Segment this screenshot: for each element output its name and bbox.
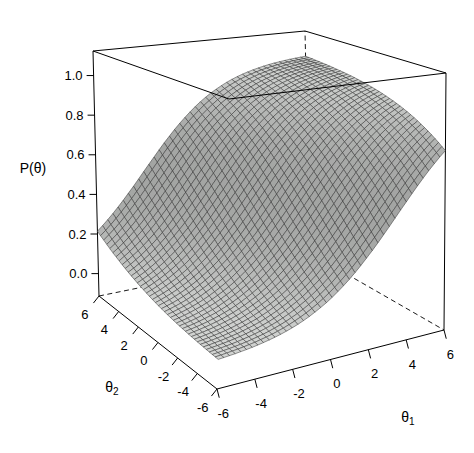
theta1-axis-title-base: θ [401,409,409,425]
theta2-axis-title-base: θ [105,379,113,395]
theta1-tick [217,389,219,398]
theta2-tick [192,374,198,381]
theta1-tick-label: 4 [409,357,416,372]
surface-mesh [97,56,445,359]
figure-canvas: 0.00.20.40.60.81.06420-2-4-6-6-4-20246P(… [0,0,474,453]
theta1-tick-label: -2 [293,386,305,401]
theta2-tick [133,327,139,334]
z-tick-label: 1.0 [65,68,83,83]
theta2-tick-label: -6 [197,400,209,415]
theta1-axis-title: θ1 [401,409,415,427]
theta2-axis-title-subscript: 2 [113,386,119,397]
theta1-tick [293,369,295,378]
theta2-tick-label: 2 [120,338,127,353]
z-tick-label: 0.4 [67,187,85,202]
top-front-left-edge [93,51,229,99]
theta2-tick-label: -4 [177,384,189,399]
theta2-tick [152,343,158,350]
theta1-tick [255,379,257,388]
z-axis-edge [93,51,99,296]
theta1-tick [406,340,408,349]
theta2-axis-title: θ2 [105,379,119,397]
theta2-tick-label: 4 [101,322,108,337]
theta1-tick [444,330,446,339]
z-axis-title: P(θ) [20,160,46,176]
theta1-tick-label: 6 [447,347,454,362]
theta2-tick-label: -2 [158,369,170,384]
surface-plot-svg: 0.00.20.40.60.81.06420-2-4-6-6-4-20246P(… [0,0,474,453]
z-tick-label: 0.0 [69,266,87,281]
theta2-tick [93,296,99,303]
theta2-tick-label: 6 [81,307,88,322]
theta2-tick [211,389,217,396]
theta2-tick [172,358,178,365]
theta1-axis-title-subscript: 1 [409,416,415,427]
theta1-tick-label: -6 [218,406,230,421]
top-back-left-edge [93,31,305,51]
theta1-tick-label: 2 [371,366,378,381]
theta2-tick [113,312,119,319]
theta1-tick-label: -4 [255,396,267,411]
z-tick-label: 0.8 [65,108,83,123]
z-tick-label: 0.6 [66,147,84,162]
z-tick-label: 0.2 [68,227,86,242]
theta2-tick-label: 0 [140,353,147,368]
right-vertical-edge [444,73,446,330]
theta1-tick-label: 0 [333,376,340,391]
theta1-tick [331,360,333,369]
theta1-tick [368,350,370,359]
